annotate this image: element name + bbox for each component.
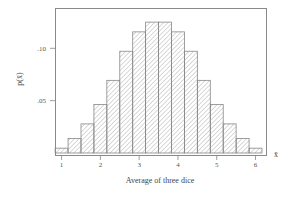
y-tick-label: .05 xyxy=(37,97,46,105)
histogram-bar xyxy=(94,105,107,153)
y-tick-label: .10 xyxy=(37,45,46,53)
x-axis-ticks: 123456 xyxy=(60,156,258,169)
y-axis-ticks: .05.10 xyxy=(37,45,55,105)
x-tick-label: 4 xyxy=(176,161,180,169)
histogram-bar xyxy=(171,32,184,153)
histogram-bar xyxy=(197,80,210,153)
histogram-chart: 123456 .05.10 Average of three dice x̄ p… xyxy=(0,0,290,198)
x-tick-label: 2 xyxy=(99,161,103,169)
x-axis-label: Average of three dice xyxy=(126,176,195,185)
x-tick-label: 5 xyxy=(215,161,219,169)
y-axis-label: p(x̄) xyxy=(15,72,24,86)
x-axis-symbol: x̄ xyxy=(274,150,278,159)
histogram-bar xyxy=(184,51,197,153)
histogram-bar xyxy=(120,51,133,153)
histogram-bar xyxy=(236,138,249,153)
bars-group xyxy=(55,22,262,153)
histogram-bar xyxy=(146,22,159,153)
x-tick-label: 1 xyxy=(60,161,64,169)
histogram-bar xyxy=(159,22,172,153)
histogram-bar xyxy=(68,138,81,153)
x-tick-label: 3 xyxy=(137,161,141,169)
histogram-bar xyxy=(55,148,68,153)
x-tick-label: 6 xyxy=(254,161,258,169)
histogram-bar xyxy=(223,124,236,153)
histogram-bar xyxy=(81,124,94,153)
histogram-bar xyxy=(133,32,146,153)
histogram-bar xyxy=(107,80,120,153)
histogram-bar xyxy=(210,105,223,153)
histogram-bar xyxy=(249,148,262,153)
